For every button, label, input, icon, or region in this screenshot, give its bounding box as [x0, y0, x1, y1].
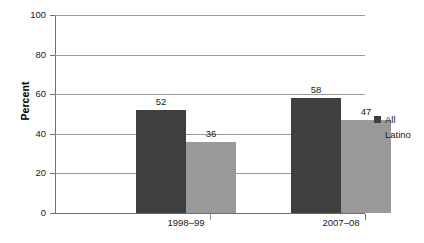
y-axis-tick-label-100: 100: [0, 10, 46, 20]
gridline-100: [55, 15, 365, 16]
legend-label-latino: Latino: [385, 130, 411, 140]
bar-chart: Percent 020406080100 52365847 1998–99200…: [0, 0, 424, 243]
chart-legend: All Latino: [374, 112, 411, 142]
gridline-80: [55, 55, 365, 56]
bar-value-label-all-0: 52: [136, 97, 186, 107]
legend-label-all: All: [385, 115, 396, 125]
x-axis-end-tick: [365, 214, 366, 220]
bar-latino-0[interactable]: [186, 142, 236, 213]
y-axis-tick-label-40: 40: [0, 129, 46, 139]
x-axis-group-label-1: 2007–08: [291, 218, 391, 228]
legend-item-all[interactable]: All: [374, 112, 411, 127]
bar-all-0[interactable]: [136, 110, 186, 213]
y-axis-tick-label-20: 20: [0, 168, 46, 178]
x-axis-group-label-0: 1998–99: [136, 218, 236, 228]
legend-swatch-icon-all: [374, 116, 381, 123]
y-axis-title: Percent: [19, 66, 31, 136]
y-axis-tick-label-60: 60: [0, 89, 46, 99]
legend-item-latino[interactable]: Latino: [374, 127, 411, 142]
y-axis-tick-label-0: 0: [0, 208, 46, 218]
legend-swatch-icon-latino: [374, 131, 381, 138]
x-axis-group-separator: [210, 214, 211, 220]
plot-area: 52365847: [55, 15, 365, 213]
y-axis-tick-label-80: 80: [0, 50, 46, 60]
bar-value-label-latino-0: 36: [186, 129, 236, 139]
bar-all-1[interactable]: [291, 98, 341, 213]
bar-value-label-all-1: 58: [291, 85, 341, 95]
